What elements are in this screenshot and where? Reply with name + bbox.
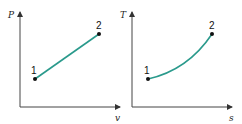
ts-point-1-label: 1: [144, 65, 150, 76]
diagram-canvas: P v 1 2 T s 1 2: [0, 0, 242, 124]
ts-process-curve: [148, 34, 212, 79]
ts-point-2: [210, 32, 214, 36]
pv-diagram: P v 1 2: [7, 10, 120, 123]
v-axis-label: v: [115, 113, 120, 123]
pv-point-1: [33, 77, 37, 81]
ts-point-2-label: 2: [209, 20, 215, 31]
ts-point-1: [146, 77, 150, 81]
pv-point-2-label: 2: [96, 20, 102, 31]
p-axis-label: P: [7, 10, 15, 20]
ts-diagram: T s 1 2: [120, 10, 234, 123]
pv-point-2: [97, 32, 101, 36]
pv-point-1-label: 1: [31, 65, 37, 76]
pv-process-line: [35, 34, 99, 79]
t-axis-label: T: [120, 10, 127, 20]
s-axis-label: s: [229, 113, 234, 123]
